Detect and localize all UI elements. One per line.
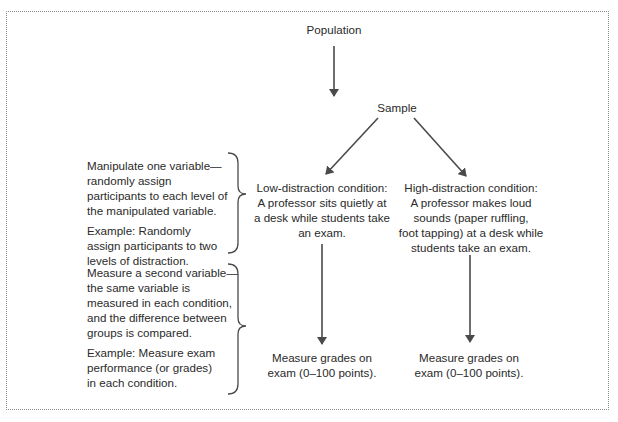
- low-condition-line: Low-distraction condition:: [252, 180, 392, 195]
- annotation-manipulate: Manipulate one variable— randomly assign…: [87, 158, 227, 268]
- node-high-measure: Measure grades on exam (0–100 points).: [409, 350, 529, 380]
- arrow-sample-to-high: [414, 118, 466, 176]
- brace-manipulate: [228, 153, 246, 253]
- high-condition-line: High-distraction condition:: [396, 180, 546, 195]
- low-condition-line: an exam.: [252, 225, 392, 240]
- arrow-sample-to-low: [326, 118, 378, 174]
- node-population: Population: [292, 22, 376, 37]
- measure-description: Measure a second variable— the same vari…: [87, 265, 227, 340]
- node-high-distraction-condition: High-distraction condition: A professor …: [396, 180, 546, 255]
- annotation-measure: Measure a second variable— the same vari…: [87, 265, 227, 390]
- annotation-line: participants to each level of: [87, 188, 227, 203]
- manipulate-example: Example: Randomly assign participants to…: [87, 223, 227, 268]
- annotation-line: Example: Randomly: [87, 223, 227, 238]
- annotation-line: performance (or grades): [87, 360, 227, 375]
- node-sample: Sample: [360, 100, 434, 115]
- low-condition-line: a desk while students take: [252, 210, 392, 225]
- annotation-line: Measure a second variable—: [87, 265, 227, 280]
- high-condition-line: sounds (paper ruffling,: [396, 210, 546, 225]
- annotation-line: Manipulate one variable—: [87, 158, 227, 173]
- annotation-line: in each condition.: [87, 375, 227, 390]
- low-measure-line: exam (0–100 points).: [262, 365, 382, 380]
- node-low-distraction-condition: Low-distraction condition: A professor s…: [252, 180, 392, 240]
- brace-measure: [228, 264, 246, 394]
- annotation-line: assign participants to two: [87, 238, 227, 253]
- annotation-line: the same variable is: [87, 280, 227, 295]
- annotation-line: Example: Measure exam: [87, 345, 227, 360]
- high-condition-line: A professor makes loud: [396, 195, 546, 210]
- manipulate-description: Manipulate one variable— randomly assign…: [87, 158, 227, 218]
- low-measure-line: Measure grades on: [262, 350, 382, 365]
- low-condition-line: A professor sits quietly at: [252, 195, 392, 210]
- high-measure-line: Measure grades on: [409, 350, 529, 365]
- measure-example: Example: Measure exam performance (or gr…: [87, 345, 227, 390]
- annotation-line: the manipulated variable.: [87, 203, 227, 218]
- annotation-line: groups is compared.: [87, 325, 227, 340]
- high-measure-line: exam (0–100 points).: [409, 365, 529, 380]
- high-condition-line: foot tapping) at a desk while: [396, 225, 546, 240]
- annotation-line: and the difference between: [87, 310, 227, 325]
- annotation-line: randomly assign: [87, 173, 227, 188]
- node-low-measure: Measure grades on exam (0–100 points).: [262, 350, 382, 380]
- annotation-line: measured in each condition,: [87, 295, 227, 310]
- high-condition-line: students take an exam.: [396, 240, 546, 255]
